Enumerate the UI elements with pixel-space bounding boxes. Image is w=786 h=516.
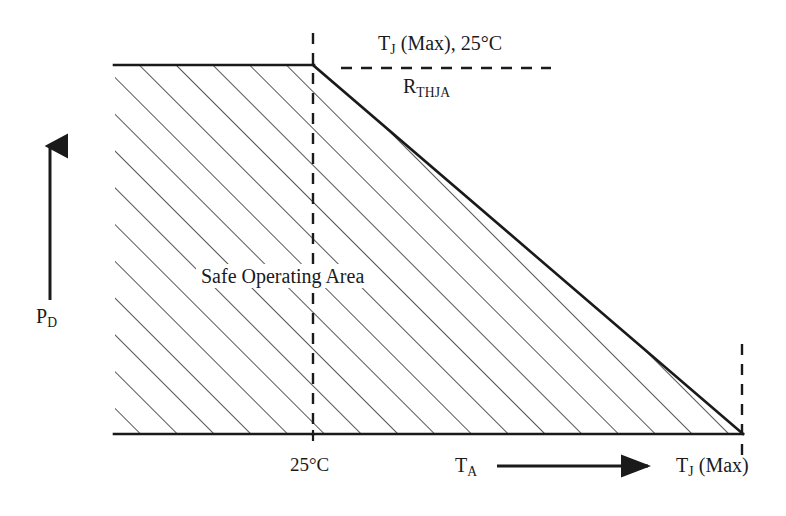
y-axis-label: PD xyxy=(36,306,57,329)
soa-diagram-canvas xyxy=(0,0,786,516)
x-axis-tick-label-25c: 25°C xyxy=(290,455,329,474)
slope-numerator-main: T xyxy=(378,32,390,54)
x-axis-label-ta-main: T xyxy=(455,454,467,476)
slope-numerator-label: TJ (Max), 25°C xyxy=(378,33,502,56)
x-axis-label-ambient-temp: TA xyxy=(455,455,477,478)
y-axis-label-subscript: D xyxy=(47,315,57,330)
soa-figure: TJ (Max), 25°C RTHJA PD Safe Operating A… xyxy=(0,0,786,516)
x-axis-label-tjmax-main: T xyxy=(676,454,688,476)
slope-denominator-label: RTHJA xyxy=(403,76,450,99)
y-axis-label-main: P xyxy=(36,305,47,327)
slope-denominator-main: R xyxy=(403,75,416,97)
safe-operating-area-label: Safe Operating Area xyxy=(196,264,369,288)
x-axis-label-junction-temp-max: TJ (Max) xyxy=(676,455,749,478)
x-axis-label-tjmax-suffix: (Max) xyxy=(694,454,749,476)
x-axis-label-ta-subscript: A xyxy=(467,464,477,479)
slope-denominator-subscript: THJA xyxy=(416,85,450,100)
safe-operating-area-hatch xyxy=(110,60,750,440)
slope-numerator-suffix: (Max), 25°C xyxy=(396,32,502,54)
